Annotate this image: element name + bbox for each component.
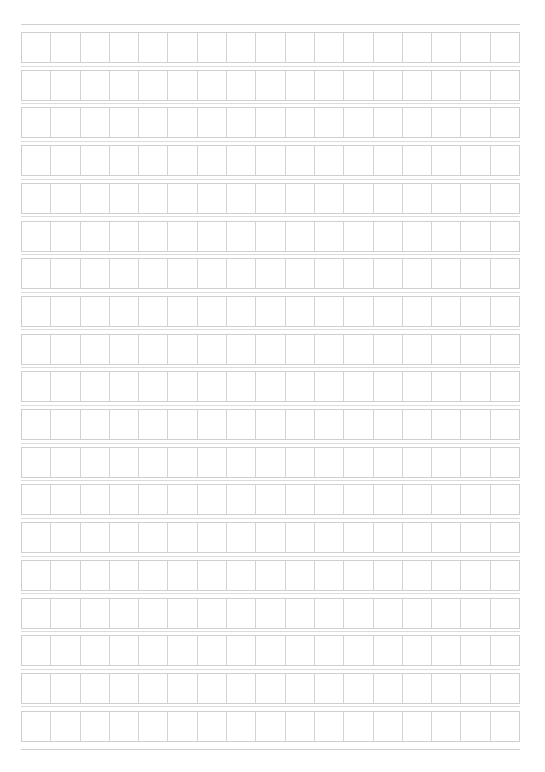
grid-cell xyxy=(50,712,79,741)
grid-cell xyxy=(460,33,489,62)
grid-cell xyxy=(22,674,50,703)
grid-cell xyxy=(402,712,431,741)
grid-cell xyxy=(343,146,372,175)
grid-cell xyxy=(109,523,138,552)
grid-cell xyxy=(255,71,284,100)
grid-cell xyxy=(80,259,109,288)
grid-cell xyxy=(314,33,343,62)
grid-cell xyxy=(80,674,109,703)
grid-cell xyxy=(197,335,226,364)
grid-cell xyxy=(460,222,489,251)
grid-cell xyxy=(80,485,109,514)
grid-cell xyxy=(460,108,489,137)
grid-cell xyxy=(80,33,109,62)
grid-cell xyxy=(167,108,196,137)
grid-cell xyxy=(402,636,431,665)
grid-cell xyxy=(460,523,489,552)
grid-cell xyxy=(80,222,109,251)
grid-cell xyxy=(343,297,372,326)
grid-cell xyxy=(431,108,460,137)
grid-cell xyxy=(285,523,314,552)
grid-cell xyxy=(50,222,79,251)
grid-row xyxy=(21,711,520,742)
grid-cell xyxy=(343,259,372,288)
grid-cell xyxy=(22,485,50,514)
grid-cell xyxy=(226,448,255,477)
grid-cell xyxy=(431,146,460,175)
grid-cell xyxy=(138,108,167,137)
grid-cell xyxy=(314,335,343,364)
grid-cell xyxy=(285,184,314,213)
grid-cell xyxy=(343,222,372,251)
grid-cell xyxy=(314,636,343,665)
grid-cell xyxy=(460,146,489,175)
grid-cell xyxy=(373,712,402,741)
grid-cell xyxy=(255,335,284,364)
grid-cell xyxy=(402,259,431,288)
grid-cell xyxy=(373,410,402,439)
grid-cell xyxy=(197,184,226,213)
grid-cell xyxy=(460,71,489,100)
grid-cell xyxy=(138,523,167,552)
row-gap-line xyxy=(21,66,520,67)
grid-cell xyxy=(314,561,343,590)
grid-cell xyxy=(138,335,167,364)
grid-cell xyxy=(343,448,372,477)
grid-cell xyxy=(431,410,460,439)
grid-cell xyxy=(373,108,402,137)
grid-cell xyxy=(109,146,138,175)
grid-cell xyxy=(80,636,109,665)
grid-cell xyxy=(402,599,431,628)
bottom-rule-line xyxy=(21,749,520,750)
grid-cell xyxy=(460,372,489,401)
grid-cell xyxy=(22,448,50,477)
grid-cell xyxy=(50,372,79,401)
grid-cell xyxy=(80,146,109,175)
grid-cell xyxy=(490,372,519,401)
grid-cell xyxy=(226,259,255,288)
grid-cell xyxy=(343,71,372,100)
grid-cell xyxy=(109,184,138,213)
grid-cell xyxy=(22,146,50,175)
grid-cell xyxy=(314,146,343,175)
grid-cell xyxy=(138,636,167,665)
grid-cell xyxy=(460,297,489,326)
grid-cell xyxy=(226,599,255,628)
grid-row xyxy=(21,522,520,553)
grid-cell xyxy=(373,599,402,628)
grid-cell xyxy=(431,335,460,364)
grid-cell xyxy=(373,71,402,100)
grid-cell xyxy=(314,712,343,741)
grid-cell xyxy=(255,674,284,703)
grid-cell xyxy=(226,222,255,251)
grid-cell xyxy=(490,448,519,477)
grid-cell xyxy=(197,372,226,401)
grid-cell xyxy=(138,485,167,514)
grid-cell xyxy=(343,636,372,665)
grid-cell xyxy=(402,108,431,137)
grid-cell xyxy=(343,599,372,628)
grid-cell xyxy=(226,674,255,703)
grid-cell xyxy=(314,259,343,288)
grid-cell xyxy=(343,674,372,703)
grid-cell xyxy=(138,372,167,401)
grid-cell xyxy=(226,485,255,514)
grid-cell xyxy=(285,297,314,326)
grid-cell xyxy=(314,410,343,439)
grid-cell xyxy=(431,184,460,213)
grid-cell xyxy=(402,523,431,552)
grid-cell xyxy=(226,335,255,364)
grid-cell xyxy=(402,146,431,175)
grid-cell xyxy=(109,599,138,628)
grid-cell xyxy=(226,297,255,326)
grid-cell xyxy=(285,561,314,590)
grid-cell xyxy=(167,448,196,477)
grid-cell xyxy=(167,674,196,703)
grid-cell xyxy=(167,184,196,213)
grid-cell xyxy=(22,335,50,364)
grid-cell xyxy=(138,71,167,100)
grid-cell xyxy=(460,712,489,741)
top-rule-line xyxy=(21,24,520,25)
grid-cell xyxy=(50,297,79,326)
row-gap-line xyxy=(21,254,520,255)
